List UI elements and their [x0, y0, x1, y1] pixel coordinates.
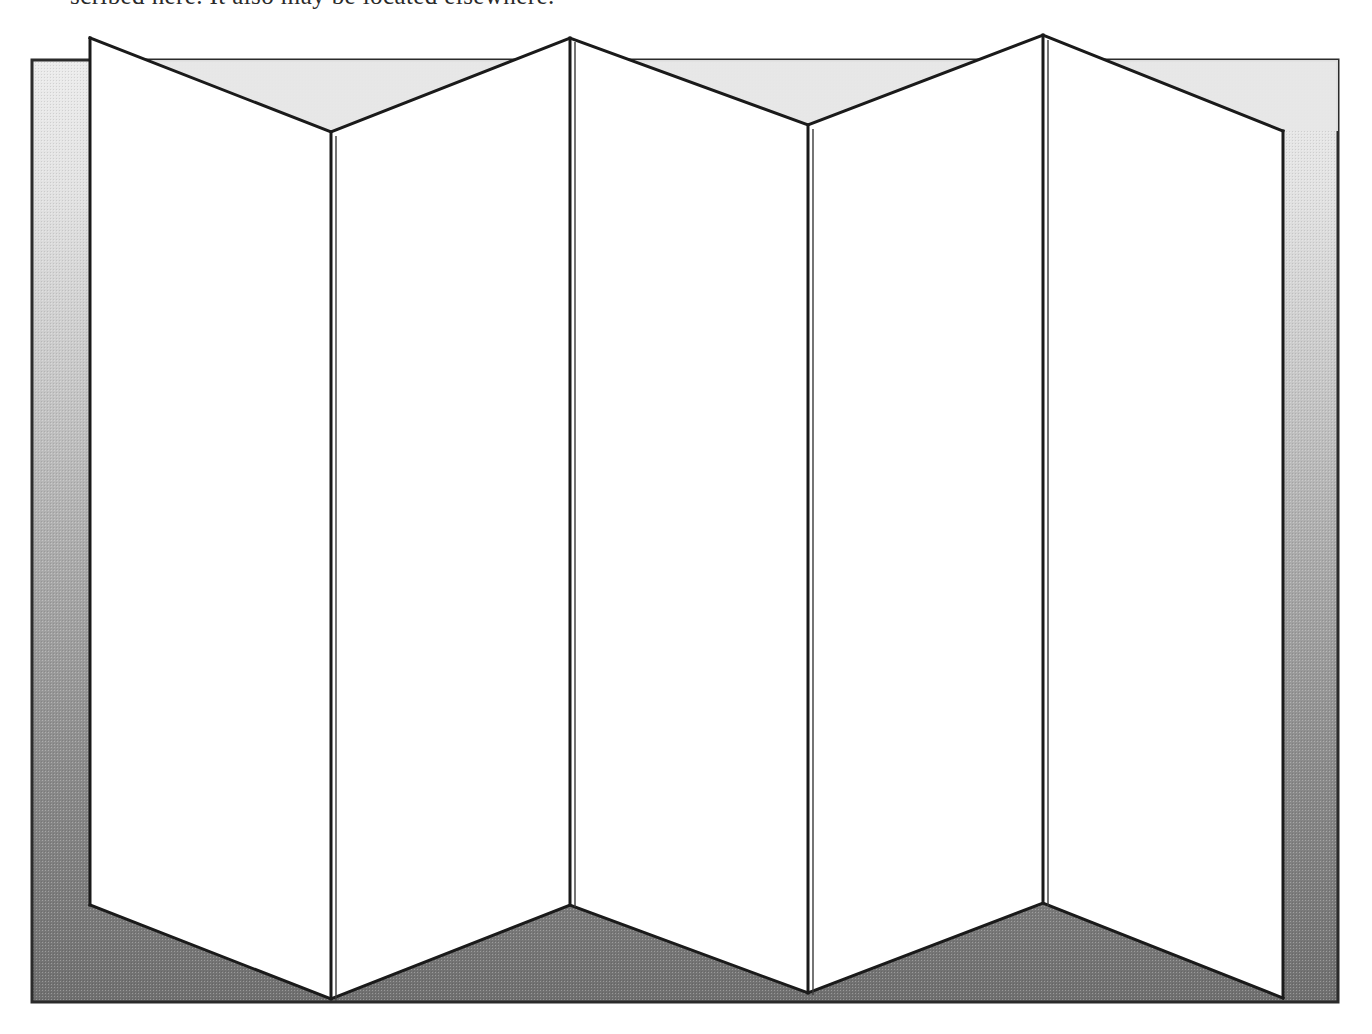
panel-face-3 — [570, 38, 808, 993]
accordion-screen-figure — [0, 0, 1372, 1034]
panel-face-1 — [90, 38, 331, 999]
figure-page: scribed here. It also may be located els… — [0, 0, 1372, 1034]
panel-faces — [90, 35, 1283, 999]
panel-face-2 — [331, 38, 570, 999]
panel-face-5 — [1043, 35, 1283, 998]
panel-face-4 — [808, 35, 1043, 993]
